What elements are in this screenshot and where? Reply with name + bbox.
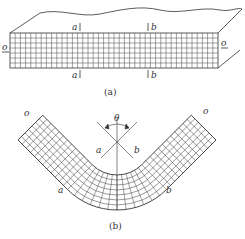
theta-label: θ: [114, 113, 120, 123]
label-a-bottom: a: [72, 70, 77, 80]
label-o-right-b: o: [203, 106, 209, 116]
label-a-top: a: [72, 22, 77, 32]
label-b-bottom: b: [151, 70, 157, 80]
caption-a: (a): [104, 87, 116, 97]
label-o-left-b: o: [24, 108, 30, 118]
caption-b: (b): [109, 221, 122, 231]
label-o-left: o: [2, 42, 8, 52]
label-a-outer: a: [58, 185, 63, 195]
label-b-top: b: [151, 22, 157, 32]
bending-diagram: a b a b o o (a) θ a b a b o o (b): [0, 0, 245, 239]
label-a-inner: a: [96, 145, 101, 155]
figure-a-grid: [10, 33, 218, 68]
label-b-inner: b: [134, 145, 140, 155]
label-o-right: o: [221, 38, 227, 48]
angle-construction: [97, 117, 137, 210]
label-b-outer: b: [166, 185, 172, 195]
